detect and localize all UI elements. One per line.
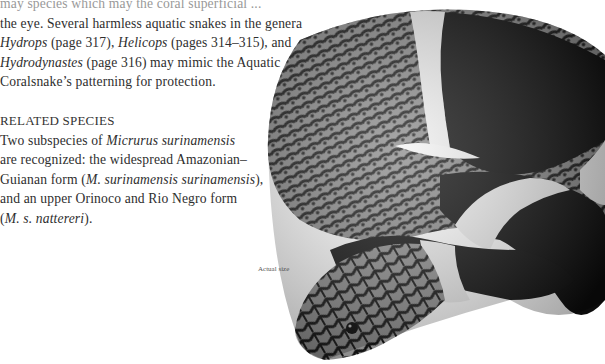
species-name: M. s. nattereri xyxy=(5,211,85,226)
species-name: M. surinamensis surinamensis xyxy=(86,172,255,187)
body-line: the eye. Several harmless aquatic snakes… xyxy=(0,14,330,34)
genus-name: Hydrops xyxy=(0,35,47,50)
related-line: and an upper Orinoco and Rio Negro form xyxy=(0,189,330,209)
genus-name: Hydrodynastes xyxy=(0,55,83,70)
book-page: may species which may the coral superfic… xyxy=(0,0,605,364)
section-heading: RELATED SPECIES xyxy=(0,111,330,131)
related-line: (M. s. nattereri). xyxy=(0,209,330,229)
related-line: Two subspecies of Micrurus surinamensis xyxy=(0,131,330,151)
species-name: Micrurus surinamensis xyxy=(106,133,235,148)
body-line: Hydrops (page 317), Helicops (pages 314–… xyxy=(0,33,330,53)
body-line: Hydrodynastes (page 316) may mimic the A… xyxy=(0,53,330,73)
body-text-column: may species which may the coral superfic… xyxy=(0,0,330,229)
figure-caption: Actual size xyxy=(258,265,289,273)
related-line: are recognized: the widespread Amazonian… xyxy=(0,150,330,170)
body-line: Coralsnake’s patterning for protection. xyxy=(0,72,330,92)
related-line: Guianan form (M. surinamensis surinamens… xyxy=(0,170,330,190)
body-line-partial: may species which may the coral superfic… xyxy=(0,0,330,14)
genus-name: Helicops xyxy=(118,35,168,50)
